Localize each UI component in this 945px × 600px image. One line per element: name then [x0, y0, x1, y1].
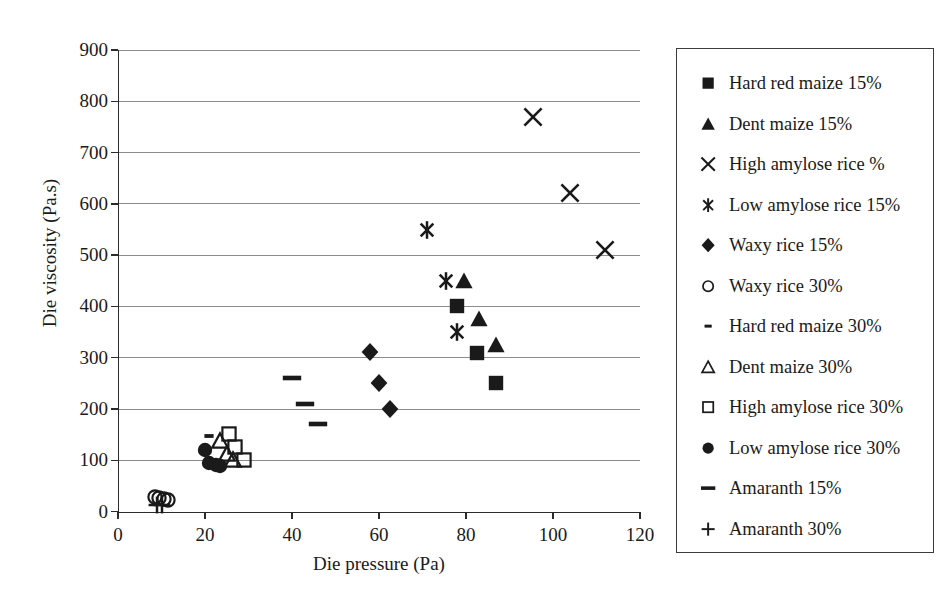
- y-tick-label: 100: [63, 450, 108, 469]
- data-point: [279, 365, 305, 391]
- x-tick-label: 60: [349, 525, 409, 544]
- legend-item-label: Dent maize 15%: [729, 113, 852, 135]
- y-tick-label: 0: [63, 502, 108, 521]
- x-tick: [552, 512, 553, 519]
- data-point: [305, 411, 331, 437]
- y-tick: [111, 152, 118, 153]
- x-axis-title: Die pressure (Pa): [118, 553, 640, 575]
- data-point: [483, 332, 509, 358]
- open-triangle-icon: [693, 356, 723, 378]
- y-tick-label: 300: [63, 348, 108, 367]
- data-point: [520, 104, 546, 130]
- data-point: [207, 453, 233, 479]
- legend-item-label: Hard red maize 30%: [729, 315, 882, 337]
- x-tick: [378, 512, 379, 519]
- filled-diamond-icon: [693, 234, 723, 256]
- long-dash-icon: [693, 477, 723, 499]
- legend-item[interactable]: Dent maize 30%: [677, 347, 933, 388]
- y-tick: [111, 203, 118, 204]
- data-point: [592, 237, 618, 263]
- x-tick-label: 100: [523, 525, 583, 544]
- open-circle-icon: [693, 275, 723, 297]
- short-dash-icon: [693, 315, 723, 337]
- legend-item-label: Amaranth 15%: [729, 477, 842, 499]
- y-tick-label: 400: [63, 296, 108, 315]
- legend-item[interactable]: Hard red maize 30%: [677, 306, 933, 347]
- y-tick-label: 800: [63, 91, 108, 110]
- filled-triangle-icon: [693, 113, 723, 135]
- x-tick-label: 40: [262, 525, 322, 544]
- data-point: [444, 319, 470, 345]
- y-tick: [111, 49, 118, 50]
- y-tick-label: 700: [63, 143, 108, 162]
- data-point: [366, 370, 392, 396]
- y-tick-label: 200: [63, 399, 108, 418]
- legend-item[interactable]: High amylose rice 30%: [677, 387, 933, 428]
- y-tick: [111, 306, 118, 307]
- y-axis-title: Die viscosity (Pa.s): [39, 103, 61, 403]
- x-tick: [117, 512, 118, 519]
- data-point: [377, 396, 403, 422]
- filled-circle-icon: [693, 437, 723, 459]
- legend-item-label: Low amylose rice 30%: [729, 437, 900, 459]
- x-tick-label: 0: [88, 525, 148, 544]
- legend-item[interactable]: Hard red maize 15%: [677, 63, 933, 104]
- x-tick: [465, 512, 466, 519]
- legend-item[interactable]: Waxy rice 30%: [677, 266, 933, 307]
- y-tick-label: 500: [63, 245, 108, 264]
- x-tick-label: 20: [175, 525, 235, 544]
- x-tick-label: 80: [436, 525, 496, 544]
- legend-list: Hard red maize 15%Dent maize 15% High am…: [677, 49, 933, 552]
- legend-box: Hard red maize 15%Dent maize 15% High am…: [676, 48, 934, 553]
- x-tick: [639, 512, 640, 519]
- x-tick: [291, 512, 292, 519]
- legend-item-label: High amylose rice 30%: [729, 396, 903, 418]
- legend-item[interactable]: Amaranth 15%: [677, 468, 933, 509]
- legend-item-label: Amaranth 30%: [729, 518, 842, 540]
- data-point: [231, 447, 257, 473]
- legend-item-label: High amylose rice %: [729, 153, 885, 175]
- data-point: [557, 180, 583, 206]
- filled-square-icon: [693, 72, 723, 94]
- y-tick-label: 900: [63, 40, 108, 59]
- legend-item-label: Waxy rice 30%: [729, 275, 843, 297]
- legend-item-label: Hard red maize 15%: [729, 72, 882, 94]
- cross-x-icon: [693, 153, 723, 175]
- legend-item-label: Low amylose rice 15%: [729, 194, 900, 216]
- y-tick-label: 600: [63, 194, 108, 213]
- legend-item[interactable]: Low amylose rice 30%: [677, 428, 933, 469]
- y-tick: [111, 408, 118, 409]
- scatter-chart-figure: Die viscosity (Pa.s) 0100200300400500600…: [0, 0, 945, 600]
- legend-item[interactable]: Low amylose rice 15%: [677, 185, 933, 226]
- legend-item[interactable]: Waxy rice 15%: [677, 225, 933, 266]
- legend-item[interactable]: Dent maize 15%: [677, 104, 933, 145]
- plot-area: [118, 50, 640, 512]
- data-point: [149, 492, 175, 518]
- data-point: [433, 268, 459, 294]
- open-square-icon: [693, 396, 723, 418]
- legend-item[interactable]: High amylose rice %: [677, 144, 933, 185]
- plus-icon: [693, 518, 723, 540]
- legend-item[interactable]: Amaranth 30%: [677, 509, 933, 550]
- data-point: [357, 339, 383, 365]
- legend-item-label: Dent maize 30%: [729, 356, 852, 378]
- y-tick: [111, 101, 118, 102]
- y-tick: [111, 254, 118, 255]
- data-point: [414, 217, 440, 243]
- y-tick: [111, 460, 118, 461]
- data-point: [483, 370, 509, 396]
- x-tick-label: 120: [610, 525, 670, 544]
- y-tick: [111, 357, 118, 358]
- legend-item-label: Waxy rice 15%: [729, 234, 843, 256]
- x-tick: [204, 512, 205, 519]
- asterisk-icon: [693, 194, 723, 216]
